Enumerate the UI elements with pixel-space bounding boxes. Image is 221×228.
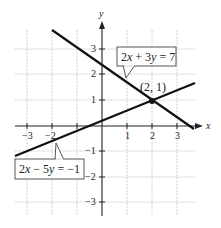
line-2x-plus-3y-eq-7	[52, 30, 194, 129]
x-axis-label: x	[205, 120, 211, 131]
x-axis-arrow-icon	[195, 123, 203, 129]
y-axis-label: y	[98, 8, 104, 19]
x-tick-label: 2	[150, 130, 155, 141]
y-tick-label: 3	[91, 43, 96, 54]
intersection-label: (2, 1)	[140, 80, 166, 94]
x-tick-label: −3	[22, 130, 33, 141]
y-axis: y	[98, 8, 105, 216]
coordinate-graph: x y −3 −2 1 2 3 3 2 1 −1 −2 −3 (2,	[0, 0, 221, 228]
y-tick-label: 2	[91, 68, 96, 79]
x-tick-label: 3	[175, 130, 180, 141]
equation-text-1: 2x + 3y = 7	[121, 50, 175, 64]
y-tick-label: −2	[85, 171, 96, 182]
x-tick-label: 1	[125, 130, 130, 141]
equation-label-2: 2x − 5y = −1	[15, 143, 84, 179]
equation-text-2: 2x − 5y = −1	[19, 162, 80, 176]
y-tick-label: −3	[85, 196, 96, 207]
equation-label-1: 2x + 3y = 7	[117, 47, 176, 78]
intersection-point	[149, 98, 155, 104]
y-axis-arrow-icon	[99, 21, 105, 29]
y-tick-label: 1	[91, 94, 96, 105]
y-tick-label: −1	[85, 145, 96, 156]
line-2x-minus-5y-eq-neg1	[15, 83, 195, 156]
